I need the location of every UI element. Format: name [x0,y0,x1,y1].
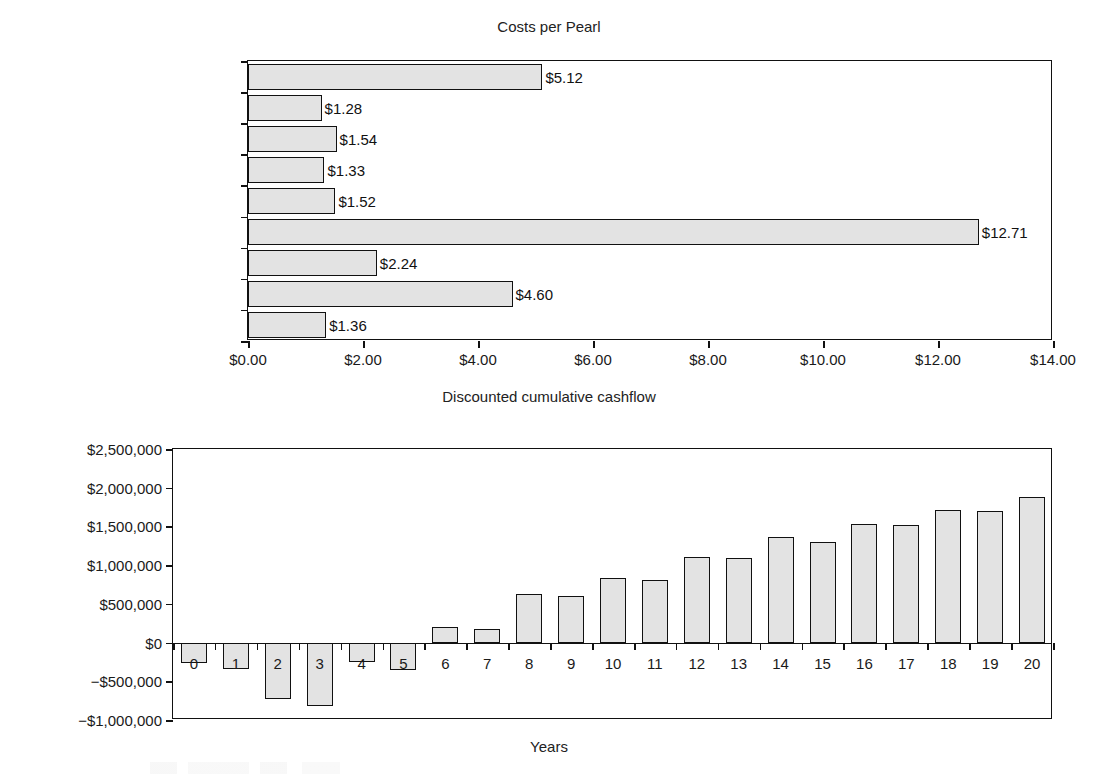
x-axis-tick-label: $14.00 [1030,351,1076,368]
y-axis-tick-label: $0 [145,634,162,651]
x-axis-tick-label-year-19: 19 [982,655,999,672]
y-axis-tick [241,310,248,312]
bar-value-label: $4.60 [513,286,554,303]
x-axis-tick [299,643,301,650]
y-axis-tick [241,185,248,187]
y-axis-tick-label: −$1,000,000 [78,712,162,729]
x-axis-tick-label: $8.00 [689,351,727,368]
x-axis-title-years: Years [0,738,1098,755]
x-axis-tick [592,643,594,650]
x-axis-tick [478,341,480,348]
y-axis-tick [241,154,248,156]
y-axis-tick [166,604,173,606]
x-axis-tick [885,643,887,650]
y-axis-tick [241,341,248,343]
x-axis-tick [466,643,468,650]
bar-value-label: $1.54 [337,130,378,147]
x-axis-tick [802,643,804,650]
y-axis-tick-label: $1,000,000 [87,557,162,574]
x-axis-tick [843,643,845,650]
bar-farm-labour [248,250,377,276]
bar-value-label: $1.28 [322,99,363,116]
bar-year-14 [768,537,794,643]
bar-value-label: $1.52 [335,192,376,209]
y-axis-tick [166,488,173,490]
bar-year-7 [474,629,500,643]
bar-year-11 [642,580,668,643]
x-axis-tick-label: $4.00 [459,351,497,368]
x-axis-tick [508,643,510,650]
x-axis-tick [676,643,678,650]
scan-artifact [150,762,340,774]
x-axis-tick-label-year-16: 16 [856,655,873,672]
x-axis-tick-label-year-17: 17 [898,655,915,672]
zero-line [173,643,1051,645]
x-axis-tick-label: $6.00 [574,351,612,368]
x-axis-tick [424,643,426,650]
bar-year-20 [1019,497,1045,643]
x-axis-tick-label-year-1: 1 [232,655,240,672]
bar-value-label: $1.33 [324,161,365,178]
bar-row: Farm labour$2.24 [248,248,1051,279]
y-axis-tick [241,279,248,281]
x-axis-tick-label-year-13: 13 [730,655,747,672]
x-axis-tick [173,643,175,650]
x-axis-tick-label-year-15: 15 [814,655,831,672]
y-axis-tick [166,643,173,645]
x-axis-tick [1011,643,1013,650]
x-axis-tick [215,643,217,650]
y-axis-tick [166,526,173,528]
y-axis-tick [166,681,173,683]
y-axis-tick-label: −$500,000 [91,673,162,690]
bar-year-19 [977,511,1003,643]
bar-year-9 [558,596,584,642]
bar-year-8 [516,594,542,642]
x-axis-tick [927,643,929,650]
y-axis-tick [166,720,173,722]
y-axis-tick-label: $2,500,000 [87,441,162,458]
x-axis-tick-label-year-20: 20 [1024,655,1041,672]
x-axis-tick-label-year-14: 14 [772,655,789,672]
x-axis-tick-label-year-0: 0 [190,655,198,672]
bar-technicians [248,219,979,245]
x-axis-tick-label-year-7: 7 [483,655,491,672]
y-axis-tick-label: $500,000 [99,595,162,612]
x-axis-tick [248,341,250,348]
bar-row: Technicians$12.71 [248,217,1051,248]
bar-year-13 [726,558,752,643]
x-axis-tick [383,643,385,650]
x-axis-tick-label: $12.00 [915,351,961,368]
bar-other-operating [248,95,322,121]
bar-marketing [248,126,337,152]
x-axis-tick-label-year-10: 10 [605,655,622,672]
bar-year-17 [893,525,919,643]
x-axis-tick [593,341,595,348]
x-axis-tick-label-year-9: 9 [567,655,575,672]
bar-year-15 [810,542,836,643]
x-axis-tick-label: $0.00 [229,351,267,368]
bar-nuclei [248,281,513,307]
y-axis-tick [241,217,248,219]
x-axis-tick-label-year-2: 2 [274,655,282,672]
bar-row: Nuclei$4.60 [248,279,1051,310]
bar-spat [248,312,326,338]
discounted-cumulative-cashflow-chart: $2,500,000$2,000,000$1,500,000$1,000,000… [0,400,1098,782]
x-axis-tick [708,341,710,348]
x-axis-tick-label-year-12: 12 [688,655,705,672]
bar-year-6 [432,627,458,642]
x-axis-tick [257,643,259,650]
x-axis-tick-label-year-5: 5 [399,655,407,672]
bar-fuel-and-energy [248,188,335,214]
bar-row: Capital$5.12 [248,61,1051,92]
y-axis-tick [241,123,248,125]
x-axis-tick-label-year-18: 18 [940,655,957,672]
y-axis-tick [241,248,248,250]
x-axis-tick [969,643,971,650]
x-axis-tick [760,643,762,650]
bar-capital [248,64,542,90]
x-axis-tick [938,341,940,348]
bar-row: Marketing$1.54 [248,123,1051,154]
bar-value-label: $1.36 [326,317,367,334]
y-axis-tick-label: $2,000,000 [87,479,162,496]
bar-year-12 [684,557,710,643]
